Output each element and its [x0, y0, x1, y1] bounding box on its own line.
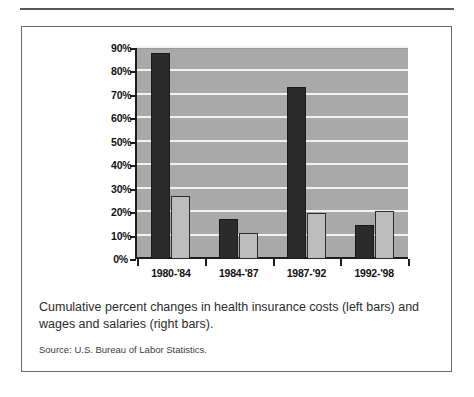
x-axis-tick — [205, 259, 207, 266]
bar-wages-salaries[interactable] — [171, 196, 190, 259]
x-axis-category-label: 1992-'98 — [340, 266, 408, 280]
bar-wages-salaries[interactable] — [375, 211, 394, 259]
figure-frame: 0%10%20%30%40%50%60%70%80%90% 1980-'8419… — [21, 26, 452, 372]
top-horizontal-rule — [20, 8, 454, 10]
figure-source: Source: U.S. Bureau of Labor Statistics. — [39, 343, 437, 356]
y-axis-tick-label: 80% — [111, 65, 128, 77]
bar-wages-salaries[interactable] — [239, 233, 258, 259]
figure-caption: Cumulative percent changes in health ins… — [39, 299, 437, 333]
y-axis-tick-label: 50% — [111, 136, 128, 148]
x-axis-category-label: 1987-'92 — [273, 266, 341, 280]
bar-group — [205, 48, 273, 259]
bar-health-insurance[interactable] — [151, 53, 170, 259]
x-axis-tick — [137, 259, 139, 266]
x-axis-category-label: 1980-'84 — [137, 266, 205, 280]
bar-health-insurance[interactable] — [219, 219, 238, 259]
bar-group — [137, 48, 205, 259]
bar-groups — [137, 48, 408, 259]
x-axis-tick — [340, 259, 342, 266]
x-axis-tick — [408, 259, 410, 266]
y-axis-tick-label: 60% — [111, 112, 128, 124]
y-axis-tick-label: 70% — [111, 89, 128, 101]
x-axis-category-label: 1984-'87 — [205, 266, 273, 280]
x-axis-tick — [273, 259, 275, 266]
y-axis-tick-label: 40% — [111, 159, 128, 171]
x-axis-labels: 1980-'841984-'871987-'921992-'98 — [137, 266, 408, 280]
bar-health-insurance[interactable] — [355, 225, 374, 259]
bar-health-insurance[interactable] — [287, 87, 306, 259]
bar-group — [273, 48, 341, 259]
y-axis-tick-label: 30% — [111, 183, 128, 195]
cutoff-text-row — [12, 0, 442, 7]
y-axis-tick — [130, 259, 136, 261]
bar-wages-salaries[interactable] — [307, 213, 326, 259]
y-axis-tick-label: 0% — [111, 253, 128, 265]
bar-chart: 0%10%20%30%40%50%60%70%80%90% 1980-'8419… — [111, 48, 408, 280]
y-axis-tick-label: 90% — [111, 42, 128, 54]
y-axis-tick-label: 10% — [111, 230, 128, 242]
bar-group — [340, 48, 408, 259]
x-axis-ticks — [137, 259, 408, 266]
y-axis-tick-label: 20% — [111, 206, 128, 218]
